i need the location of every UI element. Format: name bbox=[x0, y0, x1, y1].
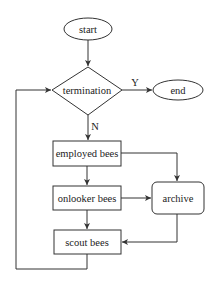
scout-bees-node: scout bees bbox=[54, 230, 121, 254]
archive-label: archive bbox=[163, 193, 194, 204]
termination-label: termination bbox=[63, 85, 112, 96]
archive-node: archive bbox=[152, 182, 204, 214]
onlooker-bees-label: onlooker bees bbox=[58, 193, 117, 204]
employed-bees-label: employed bees bbox=[56, 148, 119, 159]
start-node: start bbox=[64, 18, 112, 40]
employed-bees-node: employed bees bbox=[53, 141, 121, 166]
no-label: N bbox=[91, 121, 99, 132]
edge-employed-archive bbox=[121, 153, 177, 181]
edge-archive-scout bbox=[122, 214, 177, 242]
start-label: start bbox=[79, 24, 97, 35]
scout-bees-label: scout bees bbox=[65, 237, 108, 248]
end-node: end bbox=[153, 80, 203, 100]
yes-label: Y bbox=[131, 77, 139, 88]
end-label: end bbox=[170, 85, 186, 96]
flowchart: start termination Y end N employed bees … bbox=[0, 0, 217, 286]
onlooker-bees-node: onlooker bees bbox=[53, 186, 121, 210]
termination-node: termination bbox=[52, 67, 122, 115]
